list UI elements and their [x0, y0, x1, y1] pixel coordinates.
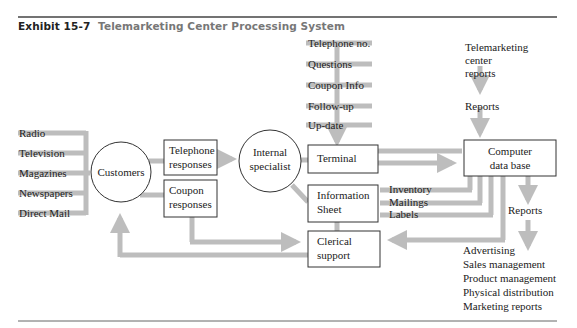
input-follow-up: Follow-up [308, 100, 354, 112]
telemarketing-reports-label-3: reports [465, 67, 496, 79]
media-magazines: Magazines [19, 167, 67, 179]
telemarketing-reports-label-1: Telemarketing [465, 41, 529, 53]
clerical-support-label-2: support [317, 249, 350, 261]
recipient-physical-distribution: Physical distribution [463, 286, 554, 298]
output-labels: Labels [389, 208, 418, 220]
media-direct-mail: Direct Mail [19, 207, 70, 219]
coupon-responses-label-1: Coupon [169, 184, 204, 196]
telephone-responses-label-1: Telephone [169, 144, 215, 156]
recipient-sales-management: Sales management [463, 258, 545, 270]
output-inventory: Inventory [389, 183, 432, 195]
recipient-advertising: Advertising [463, 244, 515, 256]
internal-specialist-label-1: Internal [253, 146, 287, 158]
coupon-responses-label-2: responses [169, 198, 212, 210]
reports-label-top: Reports [465, 100, 499, 112]
recipient-product-management: Product management [463, 272, 556, 284]
telemarketing-reports-label-2: center [465, 54, 492, 66]
flow-diagram: Radio Television Magazines Newspapers Di… [0, 0, 577, 328]
output-mailings: Mailings [389, 196, 428, 208]
media-television: Television [19, 147, 65, 159]
input-questions: Questions [308, 58, 352, 70]
telephone-responses-label-2: responses [169, 158, 212, 170]
input-up-date: Up-date [308, 119, 344, 131]
terminal-label: Terminal [317, 152, 357, 164]
information-sheet-label-2: Sheet [317, 203, 341, 215]
media-list: Radio Television Magazines Newspapers Di… [19, 127, 73, 219]
customers-label: Customers [97, 166, 144, 178]
information-sheet-label-1: Information [317, 189, 370, 201]
clerical-support-label-1: Clerical [317, 235, 352, 247]
computer-database-label-2: data base [490, 159, 531, 171]
reports-label-bottom: Reports [508, 204, 542, 216]
media-newspapers: Newspapers [19, 187, 73, 199]
computer-database-label-1: Computer [488, 145, 532, 157]
media-radio: Radio [19, 127, 46, 139]
input-telephone-no: Telephone no. [308, 37, 370, 49]
recipient-marketing-reports: Marketing reports [463, 300, 542, 312]
report-recipients: Advertising Sales management Product man… [463, 244, 556, 312]
input-coupon-info: Coupon Info [308, 79, 364, 91]
internal-specialist-label-2: specialist [250, 160, 291, 172]
